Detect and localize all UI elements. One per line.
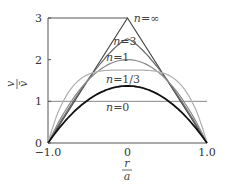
- curve-label: n=1: [106, 51, 129, 64]
- x-tick-label: 1.0: [198, 146, 216, 159]
- x-label-num: r: [124, 157, 130, 170]
- y-label-num: v: [4, 80, 17, 87]
- y-label-den: v̄: [17, 80, 30, 87]
- curve-label: n=∞: [134, 12, 159, 25]
- curve-labels: n=∞n=3n=1n=1/3n=0: [106, 12, 159, 113]
- y-axis-label: vv̄: [4, 79, 30, 89]
- x-label-den: a: [124, 170, 131, 183]
- y-tick-label: 2: [35, 54, 42, 67]
- y-tick-label: 1: [35, 95, 42, 108]
- curve-n-0: [48, 86, 207, 143]
- x-tick-label: −1.0: [35, 146, 62, 159]
- curve-label: n=3: [113, 35, 136, 48]
- x-axis-label: r a: [122, 157, 132, 183]
- curve-label: n=1/3: [106, 73, 140, 86]
- y-tick-label: 3: [35, 12, 42, 25]
- curve-label: n=0: [106, 101, 129, 114]
- velocity-profile-chart: 0123−1.001.0 n=∞n=3n=1n=1/3n=0 vv̄ r a: [0, 0, 228, 188]
